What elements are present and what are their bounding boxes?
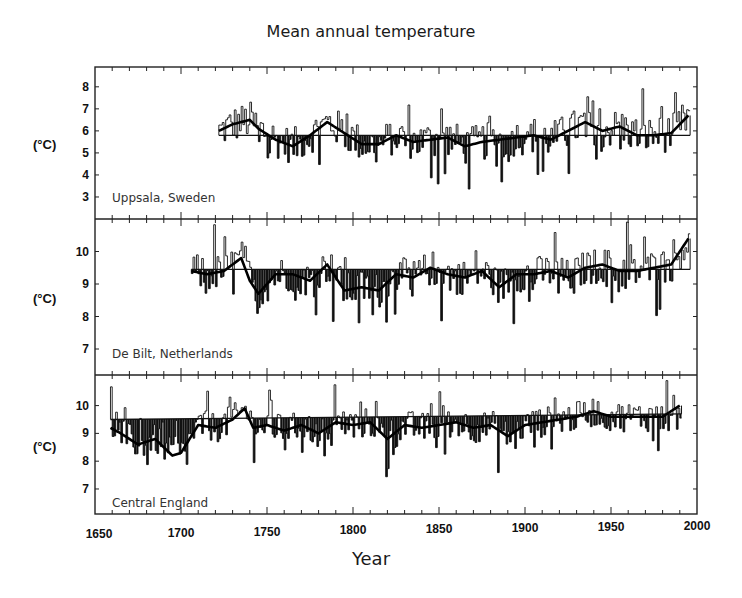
x-tick-label: 1850 [426, 522, 453, 536]
panel-central-england: 78910(°C)Central England [33, 375, 697, 514]
y-tick-label: 9 [82, 426, 89, 440]
y-tick-label: 10 [76, 399, 90, 413]
y-tick-label: 8 [82, 80, 89, 94]
y-tick-label: 8 [82, 310, 89, 324]
y-tick-label: 7 [82, 102, 89, 116]
y-tick-label: 3 [82, 190, 89, 204]
x-tick-label: 1900 [512, 521, 539, 535]
chart-area: 345678(°C)Uppsala, Sweden78910(°C)De Bil… [0, 0, 742, 598]
smoothed-curve [191, 239, 688, 294]
x-tick-label: 1800 [340, 523, 367, 537]
y-tick-label: 8 [82, 454, 89, 468]
y-axis-unit-label: (°C) [33, 439, 56, 454]
x-tick-label: 2000 [684, 519, 711, 533]
y-tick-label: 5 [82, 146, 89, 160]
x-tick-label: 1700 [168, 526, 195, 540]
y-tick-label: 4 [82, 168, 89, 182]
panel-uppsala-sweden: 345678(°C)Uppsala, Sweden [33, 67, 697, 219]
x-tick-label: 1950 [598, 520, 625, 534]
y-tick-label: 7 [82, 342, 89, 356]
y-tick-label: 9 [82, 277, 89, 291]
station-label: Central England [112, 496, 208, 510]
y-tick-label: 10 [76, 245, 90, 259]
y-axis-unit-label: (°C) [33, 291, 56, 306]
station-label: Uppsala, Sweden [112, 191, 215, 205]
station-label: De Bilt, Netherlands [112, 347, 233, 361]
y-tick-label: 7 [82, 482, 89, 496]
panel-de-bilt-netherlands: 78910(°C)De Bilt, Netherlands [33, 219, 697, 375]
y-tick-label: 6 [82, 124, 89, 138]
x-tick-label: 1750 [254, 525, 281, 539]
x-tick-label: 1650 [86, 527, 113, 541]
x-axis-label: Year [0, 548, 742, 569]
y-axis-unit-label: (°C) [33, 137, 56, 152]
